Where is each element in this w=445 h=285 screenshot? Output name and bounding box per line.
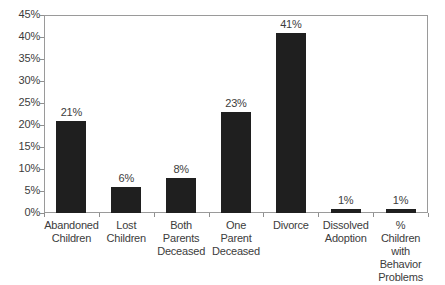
y-axis-tick-mark xyxy=(40,103,44,104)
x-axis-tick-mark xyxy=(373,213,374,217)
x-axis-category-label-line: Children xyxy=(99,232,154,245)
x-axis-category-label-line: Abandoned xyxy=(44,219,99,232)
bar-value-label: 1% xyxy=(371,195,431,206)
bar-value-label: 21% xyxy=(41,107,101,118)
bar-chart: 0%5%10%15%20%25%30%35%40%45% 21%6%8%23%4… xyxy=(0,0,445,285)
bar[interactable] xyxy=(331,209,361,213)
bar-value-label: 23% xyxy=(206,98,266,109)
x-axis-category-label-line: Children xyxy=(44,232,99,245)
x-axis-tick-mark xyxy=(44,213,45,217)
x-axis-category-label-line: Dissolved xyxy=(318,219,373,232)
x-axis-tick-mark xyxy=(154,213,155,217)
bar-value-label: 6% xyxy=(96,173,156,184)
bar[interactable] xyxy=(221,112,251,213)
bar-value-label: 8% xyxy=(151,164,211,175)
x-axis-tick-mark xyxy=(99,213,100,217)
x-axis-category-label-line: Deceased xyxy=(209,245,264,258)
x-axis-category-label-line: Divorce xyxy=(263,219,318,232)
x-axis-tick-mark xyxy=(209,213,210,217)
x-axis-tick-mark xyxy=(263,213,264,217)
x-axis-category-label-line: Lost xyxy=(99,219,154,232)
x-axis-category-label-line: Adoption xyxy=(318,232,373,245)
x-axis-category-label-line: Parent xyxy=(209,232,264,245)
x-axis-category-label-line: Children xyxy=(373,232,428,245)
x-axis-category-label: AbandonedChildren xyxy=(44,219,99,245)
x-axis-category-label: DissolvedAdoption xyxy=(318,219,373,245)
x-axis-category-label-line: Problems xyxy=(373,271,428,284)
bar-value-label: 41% xyxy=(261,19,321,30)
x-axis-tick-mark xyxy=(428,213,429,217)
x-axis-category-label: OneParentDeceased xyxy=(209,219,264,258)
bar[interactable] xyxy=(166,178,196,213)
x-axis-category-label: LostChildren xyxy=(99,219,154,245)
y-axis-tick-mark xyxy=(40,59,44,60)
x-axis-category-label-line: with xyxy=(373,245,428,258)
x-axis-category-label: %ChildrenwithBehaviorProblems xyxy=(373,219,428,284)
x-axis-category-label-line: Deceased xyxy=(154,245,209,258)
y-axis-tick-mark xyxy=(40,81,44,82)
x-axis-category-label-line: Parents xyxy=(154,232,209,245)
y-axis-tick-mark xyxy=(40,125,44,126)
bar[interactable] xyxy=(56,121,86,213)
y-axis-tick-mark xyxy=(40,191,44,192)
x-axis-category-label-line: Both xyxy=(154,219,209,232)
x-axis-category-label-line: One xyxy=(209,219,264,232)
y-axis-tick-mark xyxy=(40,37,44,38)
y-axis-tick-mark xyxy=(40,147,44,148)
x-axis-tick-mark xyxy=(318,213,319,217)
x-axis-category-label-line: Behavior xyxy=(373,258,428,271)
x-axis-category-label: Divorce xyxy=(263,219,318,232)
y-axis-tick-mark xyxy=(40,169,44,170)
y-axis-tick-mark xyxy=(40,15,44,16)
bar[interactable] xyxy=(386,209,416,213)
bar[interactable] xyxy=(276,33,306,213)
bar[interactable] xyxy=(111,187,141,213)
bar-value-label: 1% xyxy=(316,195,376,206)
x-axis-category-label: BothParentsDeceased xyxy=(154,219,209,258)
x-axis-category-label-line: % xyxy=(373,219,428,232)
